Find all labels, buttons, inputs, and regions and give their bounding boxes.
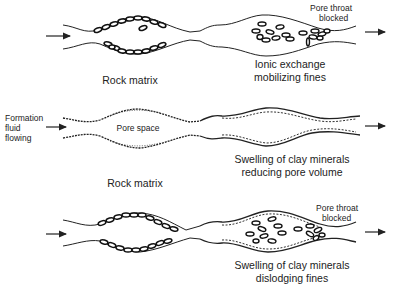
caption-middle-right-line2: reducing pore volume	[222, 166, 362, 178]
flow-label-line1: Formation	[5, 113, 43, 123]
panel-top-left-pores	[46, 16, 200, 54]
panel-bottom-left-pores	[46, 213, 200, 252]
formation-damage-diagram: Rock matrix Pore throat blocked Ionic ex…	[0, 0, 394, 290]
annotation-top-right-line1: Pore throat	[310, 3, 352, 13]
caption-middle-left: Rock matrix	[95, 177, 175, 189]
caption-top-right-line1: Ionic exchange	[240, 58, 340, 70]
caption-bottom-right-line1: Swelling of clay minerals	[222, 259, 362, 271]
panel-middle-right-pores	[200, 108, 385, 146]
annotation-bottom-right-line2: blocked	[322, 213, 351, 223]
panel-bottom-right-pores	[200, 211, 385, 252]
caption-top-right-line2: mobilizing fines	[240, 71, 340, 83]
pore-space-label: Pore space	[108, 123, 168, 133]
flow-label-line3: flowing	[5, 133, 31, 143]
panel-top-right-pores	[200, 15, 385, 56]
flow-label-line2: fluid	[5, 123, 21, 133]
annotation-bottom-right-line1: Pore throat	[316, 203, 358, 213]
caption-top-left: Rock matrix	[90, 74, 170, 86]
caption-bottom-right-line2: dislodging fines	[222, 272, 362, 284]
caption-middle-right-line1: Swelling of clay minerals	[222, 153, 362, 165]
annotation-top-right-line2: blocked	[319, 13, 348, 23]
